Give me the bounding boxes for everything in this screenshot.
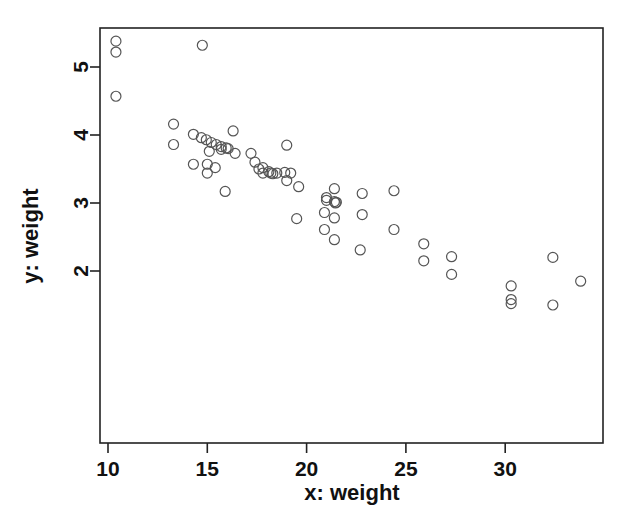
y-axis-title: y: weight: [18, 188, 43, 284]
y-tick-label: 5: [69, 61, 92, 73]
y-tick-label: 2: [69, 265, 92, 277]
x-tick-label: 10: [96, 457, 119, 480]
x-tick-label: 20: [295, 457, 318, 480]
x-tick-label: 25: [394, 457, 418, 480]
x-tick-label: 30: [494, 457, 517, 480]
scatter-plot-figure: 1015202530 2345 x: weight y: weight: [0, 0, 630, 522]
y-tick-label: 3: [69, 197, 92, 209]
x-axis-title: x: weight: [304, 480, 400, 505]
plot-svg: 1015202530 2345 x: weight y: weight: [0, 0, 630, 522]
y-tick-label: 4: [69, 129, 92, 141]
x-tick-label: 15: [196, 457, 220, 480]
